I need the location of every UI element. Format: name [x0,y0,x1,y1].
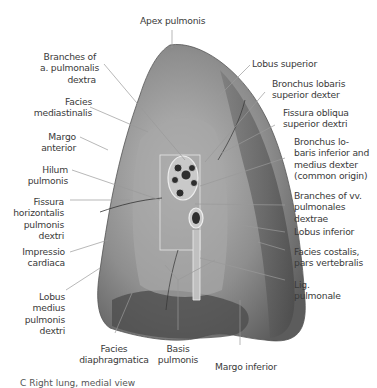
label-line: Branches of vv. [294,190,362,201]
label-line: Bronchus lo- [294,136,369,147]
label-line: Impressio [5,246,65,257]
label-line: pulmonis [5,314,65,325]
label-margo-inferior: Margo inferior [215,361,277,372]
label-line: cardiaca [5,257,65,268]
figure-caption: C Right lung, medial view [20,378,135,388]
label-line: superior dexter [272,89,345,100]
label-lobus-medius: Lobus medius pulmonis dextri [5,291,65,337]
label-line: mediastinalis [20,107,92,118]
label-facies-mediastinalis: Facies mediastinalis [20,96,92,119]
label-line: pulmonis [10,175,68,186]
label-line: pulmonis [5,219,64,230]
label-line: Facies costalis, [294,246,363,257]
label-line: medius dexter [294,159,369,170]
label-apex-pulmonis: Apex pulmonis [140,15,205,26]
label-line: Facies [20,96,92,107]
label-line: anterior [20,142,76,153]
label-line: diaphragmatica [78,354,150,365]
label-line: Lig. [294,279,341,290]
label-margo-anterior: Margo anterior [20,131,76,154]
label-basis-pulmonis: Basis pulmonis [155,343,201,366]
label-line: Lobus [5,291,65,302]
label-line: dextri [5,230,64,241]
label-branches-vv-pulmonales: Branches of vv. pulmonales dextrae [294,190,362,224]
label-line: (common origin) [294,170,369,181]
label-line: pulmonis [155,354,201,365]
label-line: a. pulmonalis [40,62,96,73]
label-facies-costalis: Facies costalis, pars vertebralis [294,246,363,269]
label-line: Fissura obliqua [283,107,349,118]
label-lig-pulmonale: Lig. pulmonale [294,279,341,302]
label-line: Facies [78,343,150,354]
label-line: pulmonale [294,290,341,301]
label-fissura-obliqua: Fissura obliqua superior dextri [283,107,349,130]
label-branches-a-pulmonalis: Branches of a. pulmonalis dextra [40,51,96,85]
label-lobus-inferior: Lobus inferior [294,226,354,237]
label-line: Margo [20,131,76,142]
label-fissura-horizontalis: Fissura horizontalis pulmonis dextri [5,196,64,242]
label-line: pars vertebralis [294,257,363,268]
label-impressio-cardiaca: Impressio cardiaca [5,246,65,269]
label-line: Hilum [10,164,68,175]
label-line: baris inferior and [294,147,369,158]
label-line: dextra [40,74,96,85]
label-line: dextri [5,325,65,336]
label-bronchus-lobaris-superior: Bronchus lobaris superior dexter [272,78,345,101]
label-line: medius [5,302,65,313]
label-hilum-pulmonis: Hilum pulmonis [10,164,68,187]
label-line: Bronchus lobaris [272,78,345,89]
label-bronchus-lobaris-inferior: Bronchus lo- baris inferior and medius d… [294,136,369,182]
label-line: horizontalis [5,207,64,218]
label-line: Branches of [40,51,96,62]
label-facies-diaphragmatica: Facies diaphragmatica [78,343,150,366]
label-line: dextrae [294,213,362,224]
label-line: pulmonales [294,201,362,212]
label-lobus-superior: Lobus superior [252,58,317,69]
label-line: superior dextri [283,118,349,129]
label-line: Basis [155,343,201,354]
label-line: Fissura [5,196,64,207]
